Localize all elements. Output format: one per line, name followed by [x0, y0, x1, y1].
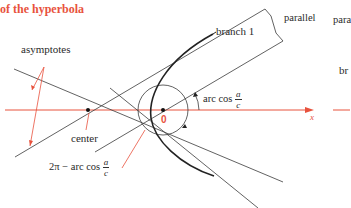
angle-arrow-upper-icon [193, 92, 198, 97]
parallel-bracket [265, 9, 283, 41]
focus-label: 0 [161, 114, 167, 125]
fraction-a-over-c: ac [103, 157, 110, 178]
fraction-a-over-c: ac [235, 89, 242, 110]
asymptotes-label: asymptotes [21, 44, 71, 55]
angle-lower-label: 2π − arc cos ac [49, 157, 109, 178]
branch-label-partial: br [339, 65, 348, 76]
branch-1-label: branch 1 [216, 26, 254, 37]
angle-arrow-lower-icon [182, 124, 187, 128]
center-point [86, 108, 90, 112]
x-axis-label: x [310, 113, 314, 122]
parallel-label: parallel [284, 13, 315, 24]
parallel-label-partial: para [333, 15, 351, 26]
parallel-upper [95, 41, 283, 152]
center-label: center [71, 133, 98, 144]
angle-lower-prefix: 2π − arc cos [49, 161, 100, 172]
center-pointer [86, 113, 89, 130]
angle-lower-pointer [122, 130, 145, 168]
angle-upper-prefix: arc cos [203, 93, 232, 104]
angle-upper-label: arc cos ac [203, 89, 242, 110]
focus-point [161, 108, 165, 112]
